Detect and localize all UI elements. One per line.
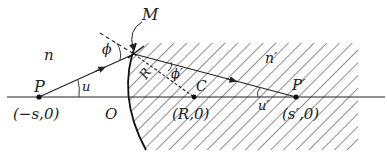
label-p: P (33, 77, 45, 96)
image-point-p-prime (293, 94, 298, 99)
label-u-prime: u′ (258, 98, 269, 113)
center-point-c (192, 95, 197, 100)
label-object-coord: (−s,0) (13, 105, 59, 123)
label-p-prime: P′ (291, 76, 306, 94)
label-phi-prime: ϕ′ (171, 66, 183, 81)
u-angle-arc (78, 80, 79, 97)
label-m: M (141, 5, 159, 24)
glass-medium-hatching (110, 40, 360, 152)
incident-ray-arrow-icon (95, 68, 103, 72)
label-o: O (105, 105, 117, 123)
refraction-diagram: n n′ M ϕ u P (−s,0) O C (R,0) P′ (s′,0) … (0, 0, 387, 160)
label-n: n (44, 46, 54, 64)
label-image-coord: (s′,0) (282, 105, 319, 123)
label-u: u (82, 79, 90, 94)
label-n-prime: n′ (265, 50, 278, 66)
label-center-coord: (R,0) (172, 105, 209, 123)
label-c: C (196, 78, 207, 94)
label-phi: ϕ (102, 41, 112, 57)
